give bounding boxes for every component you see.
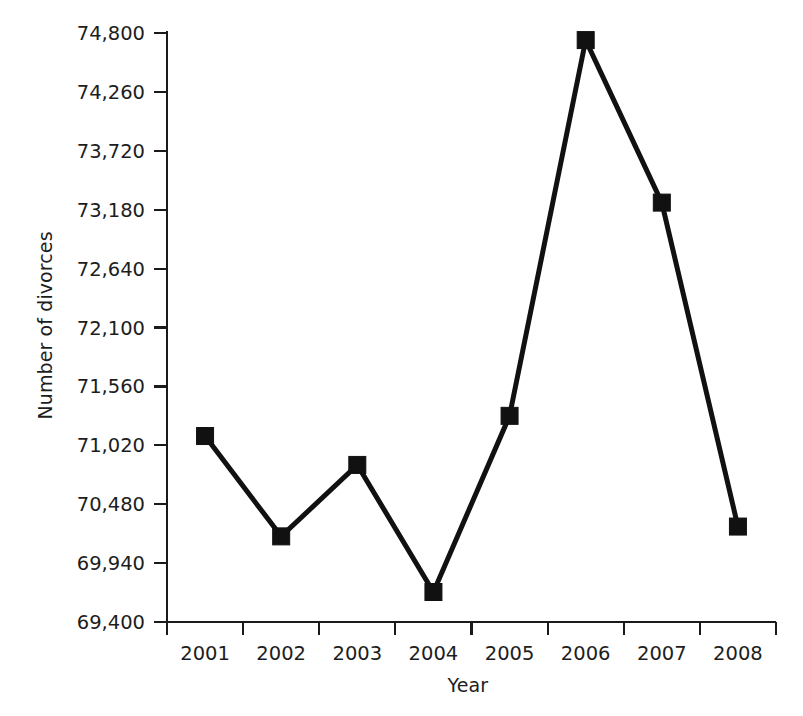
- data-point-marker: [501, 407, 518, 424]
- x-axis-tick-marks: [167, 622, 776, 635]
- x-tick-label: 2004: [409, 642, 459, 665]
- x-tick-label: 2006: [561, 642, 611, 665]
- y-tick-label: 70,480: [77, 493, 145, 516]
- data-point-marker: [425, 584, 442, 601]
- y-tick-label: 74,800: [77, 22, 145, 45]
- data-point-marker: [273, 528, 290, 545]
- y-tick-label: 72,100: [77, 317, 145, 340]
- x-tick-label: 2005: [485, 642, 535, 665]
- data-point-marker: [577, 32, 594, 49]
- divorces-line-chart: Number of divorces Year 74,80074,26073,7…: [0, 0, 803, 716]
- y-tick-label: 72,640: [77, 258, 145, 281]
- data-point-marker: [349, 456, 366, 473]
- plot-area: 74,80074,26073,72073,18072,64072,10071,5…: [0, 0, 803, 716]
- x-tick-label: 2003: [332, 642, 382, 665]
- x-axis-tick-labels: 20012002200320042005200620072008: [180, 642, 763, 665]
- data-series-markers: [197, 32, 747, 601]
- x-tick-label: 2007: [637, 642, 687, 665]
- y-tick-label: 69,940: [77, 552, 145, 575]
- y-tick-label: 73,180: [77, 199, 145, 222]
- y-tick-label: 71,020: [77, 434, 145, 457]
- y-tick-label: 74,260: [77, 81, 145, 104]
- axis-lines: [167, 31, 776, 622]
- x-tick-label: 2001: [180, 642, 230, 665]
- x-tick-label: 2002: [256, 642, 306, 665]
- data-point-marker: [197, 428, 214, 445]
- y-axis-tick-labels: 74,80074,26073,72073,18072,64072,10071,5…: [77, 22, 145, 634]
- data-series-line: [205, 40, 738, 592]
- x-tick-label: 2008: [713, 642, 763, 665]
- y-tick-label: 71,560: [77, 375, 145, 398]
- y-tick-label: 73,720: [77, 140, 145, 163]
- data-point-marker: [653, 194, 670, 211]
- y-axis-tick-marks: [154, 33, 167, 622]
- y-tick-label: 69,400: [77, 611, 145, 634]
- data-point-marker: [729, 518, 746, 535]
